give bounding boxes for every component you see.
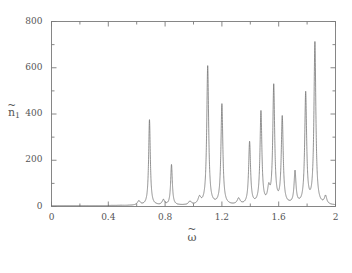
tilde-accent-icon: ~ <box>188 224 197 234</box>
resonance-spectrum-figure: 0 200 400 600 800 0 0.4 0.8 1.2 1.6 2 ~n… <box>0 0 352 273</box>
spectrum-curve <box>52 41 336 205</box>
xtick-label: 0.8 <box>158 212 172 222</box>
xtick-label: 0 <box>49 212 55 222</box>
xtick-label: 1.2 <box>215 212 229 222</box>
plot-canvas <box>0 0 352 273</box>
ytick-label: 0 <box>0 201 43 211</box>
ytick-label: 600 <box>0 62 43 72</box>
ytick-label: 800 <box>0 16 43 26</box>
plot-frame <box>52 22 336 207</box>
xtick-label: 1.6 <box>272 212 286 222</box>
ytick-label: 200 <box>0 154 43 164</box>
tilde-accent-icon: ~ <box>7 100 16 110</box>
y-axis-label: ~n1 <box>8 106 20 120</box>
x-axis-label: ~ω <box>188 231 197 244</box>
y-axis-label-subscript: 1 <box>15 111 20 120</box>
xtick-label: 2 <box>333 212 339 222</box>
axis-ticks <box>52 22 336 207</box>
xtick-label: 0.4 <box>101 212 115 222</box>
